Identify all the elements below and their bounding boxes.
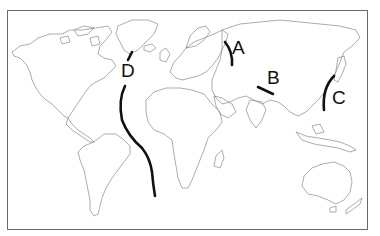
madagascar-coastline [214, 150, 224, 168]
new-zealand-coastline [346, 198, 362, 214]
label-c: C [332, 88, 346, 107]
label-b: B [267, 68, 280, 87]
arctic-islands-coastline [60, 26, 100, 46]
marker-b-line [258, 87, 273, 94]
scandinavia-coastline [186, 26, 210, 48]
southeast-asia-coastline [296, 124, 356, 152]
world-map [0, 0, 380, 236]
north-america-coastline [12, 26, 116, 118]
iceland-coastline [144, 44, 156, 52]
europe-coastline [170, 30, 228, 80]
japan-coastline [334, 56, 346, 82]
india-coastline [246, 100, 266, 128]
central-america-coastline [66, 118, 94, 142]
greenland-coastline [116, 20, 158, 54]
south-america-coastline [78, 134, 130, 216]
tasmania-coastline [330, 206, 336, 212]
africa-coastline [146, 88, 222, 188]
australia-coastline [302, 162, 352, 204]
marker-d-line-lower [121, 86, 155, 196]
british-isles-coastline [160, 48, 170, 62]
label-a: A [232, 38, 245, 57]
label-d: D [121, 61, 135, 80]
